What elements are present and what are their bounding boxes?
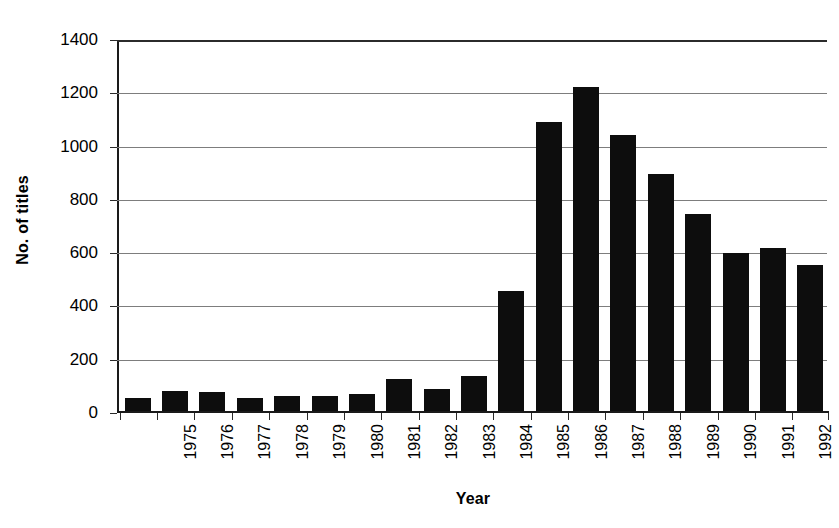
bar <box>461 376 487 411</box>
x-tick-label: 1981 <box>406 424 424 494</box>
x-tick-mark <box>344 413 345 420</box>
x-tick-label: 1992 <box>817 424 835 494</box>
gridline <box>117 147 827 148</box>
bar <box>685 214 711 411</box>
y-tick-mark <box>110 93 117 94</box>
gridline <box>117 40 827 42</box>
x-tick-label: 1978 <box>294 424 312 494</box>
x-axis-line <box>117 411 829 413</box>
gridline <box>117 360 827 361</box>
y-tick-mark <box>110 253 117 254</box>
bar <box>237 398 263 411</box>
x-tick-label: 1975 <box>182 424 200 494</box>
y-tick-label: 1200 <box>38 84 98 101</box>
x-tick-label: 1977 <box>256 424 274 494</box>
x-tick-mark <box>792 413 793 420</box>
bar <box>386 379 412 411</box>
x-tick-mark <box>680 413 681 420</box>
y-tick-label: 800 <box>38 191 98 208</box>
x-tick-mark <box>157 413 158 420</box>
y-axis-line <box>117 40 119 413</box>
x-tick-mark <box>605 413 606 420</box>
y-tick-mark <box>110 306 117 307</box>
x-tick-mark <box>456 413 457 420</box>
x-tick-mark <box>381 413 382 420</box>
bar <box>125 398 151 411</box>
x-tick-label: 1979 <box>331 424 349 494</box>
y-tick-label: 1000 <box>38 138 98 155</box>
y-axis-title: No. of titles <box>14 130 36 310</box>
bar <box>723 253 749 411</box>
y-tick-mark <box>110 413 117 414</box>
bar <box>498 291 524 411</box>
x-tick-label: 1982 <box>443 424 461 494</box>
x-tick-label: 1986 <box>593 424 611 494</box>
y-tick-label: 200 <box>38 351 98 368</box>
bar <box>573 87 599 412</box>
y-tick-mark <box>110 360 117 361</box>
x-tick-label: 1988 <box>667 424 685 494</box>
x-tick-mark <box>194 413 195 420</box>
bar <box>760 248 786 411</box>
x-tick-mark <box>718 413 719 420</box>
y-tick-mark <box>110 147 117 148</box>
bar <box>536 122 562 411</box>
y-tick-label: 1400 <box>38 31 98 48</box>
y-tick-label: 600 <box>38 244 98 261</box>
y-tick-mark <box>110 200 117 201</box>
y-tick-mark <box>110 40 117 41</box>
bar <box>610 135 636 411</box>
x-tick-mark <box>120 413 121 420</box>
x-tick-mark <box>643 413 644 420</box>
bar <box>162 391 188 411</box>
gridline <box>117 306 827 307</box>
x-tick-label: 1991 <box>780 424 798 494</box>
bar <box>349 394 375 411</box>
y-tick-label: 0 <box>38 404 98 421</box>
bar <box>312 396 338 411</box>
x-tick-mark <box>307 413 308 420</box>
x-tick-mark <box>493 413 494 420</box>
x-tick-mark <box>828 413 829 420</box>
x-tick-mark <box>531 413 532 420</box>
x-tick-label: 1984 <box>518 424 536 494</box>
bar <box>199 392 225 411</box>
x-tick-mark <box>232 413 233 420</box>
x-tick-mark <box>568 413 569 420</box>
x-tick-label: 1985 <box>555 424 573 494</box>
x-tick-label: 1976 <box>219 424 237 494</box>
x-tick-label: 1989 <box>705 424 723 494</box>
y-tick-label: 400 <box>38 297 98 314</box>
bar <box>797 265 823 411</box>
x-axis-title: Year <box>117 490 829 508</box>
x-tick-label: 1990 <box>742 424 760 494</box>
gridline <box>117 93 827 94</box>
gridline <box>117 253 827 254</box>
plot-area: 0200400600800100012001400 19751976197719… <box>117 40 827 413</box>
bar <box>274 396 300 411</box>
bar <box>424 389 450 411</box>
gridline <box>117 200 827 201</box>
x-tick-label: 1983 <box>481 424 499 494</box>
bar <box>648 174 674 411</box>
x-tick-mark <box>269 413 270 420</box>
x-tick-label: 1987 <box>630 424 648 494</box>
x-tick-label: 1980 <box>369 424 387 494</box>
x-tick-mark <box>755 413 756 420</box>
x-tick-mark <box>419 413 420 420</box>
bar-chart-figure: No. of titles 0200400600800100012001400 … <box>0 0 839 528</box>
